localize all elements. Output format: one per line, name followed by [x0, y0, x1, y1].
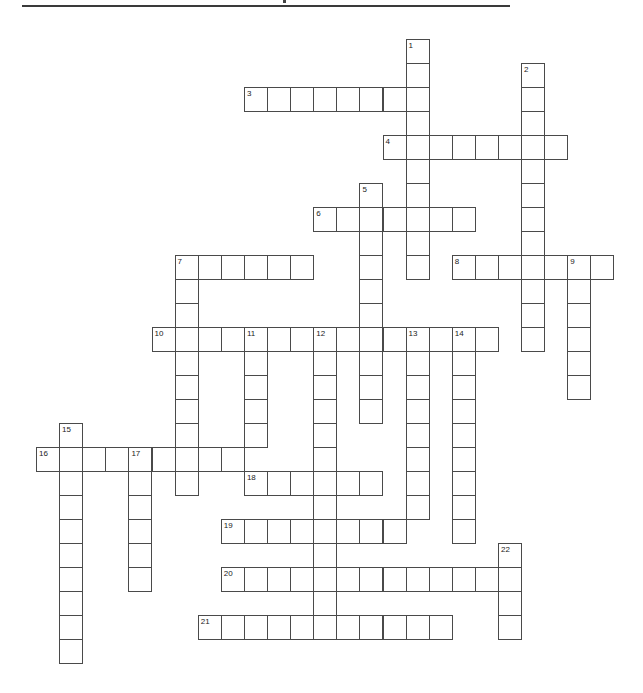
- crossword-cell[interactable]: [359, 327, 383, 352]
- crossword-cell[interactable]: [244, 615, 268, 640]
- crossword-cell[interactable]: [452, 207, 476, 232]
- crossword-cell[interactable]: [59, 639, 83, 664]
- crossword-cell[interactable]: [567, 279, 591, 304]
- crossword-cell[interactable]: [313, 471, 337, 496]
- crossword-cell[interactable]: [313, 423, 337, 448]
- crossword-cell[interactable]: [175, 447, 199, 472]
- crossword-cell[interactable]: [567, 375, 591, 400]
- crossword-cell[interactable]: [336, 615, 360, 640]
- crossword-cell[interactable]: [244, 567, 268, 592]
- crossword-cell[interactable]: [290, 519, 314, 544]
- crossword-cell[interactable]: [521, 87, 545, 112]
- crossword-cell[interactable]: [429, 135, 453, 160]
- crossword-cell[interactable]: [521, 159, 545, 184]
- crossword-cell[interactable]: [221, 327, 245, 352]
- crossword-cell[interactable]: [359, 207, 383, 232]
- crossword-cell[interactable]: [59, 543, 83, 568]
- crossword-cell[interactable]: [175, 303, 199, 328]
- crossword-cell[interactable]: [359, 567, 383, 592]
- crossword-cell[interactable]: [267, 615, 291, 640]
- crossword-cell[interactable]: 21: [198, 615, 222, 640]
- crossword-cell[interactable]: [267, 567, 291, 592]
- crossword-cell[interactable]: [406, 471, 430, 496]
- crossword-cell[interactable]: [452, 423, 476, 448]
- crossword-cell[interactable]: [452, 495, 476, 520]
- crossword-cell[interactable]: [267, 519, 291, 544]
- crossword-cell[interactable]: [198, 255, 222, 280]
- crossword-cell[interactable]: [59, 591, 83, 616]
- crossword-cell[interactable]: [406, 375, 430, 400]
- crossword-cell[interactable]: [521, 135, 545, 160]
- crossword-cell[interactable]: [475, 255, 499, 280]
- crossword-cell[interactable]: [406, 159, 430, 184]
- crossword-cell[interactable]: 2: [521, 63, 545, 88]
- crossword-cell[interactable]: 13: [406, 327, 430, 352]
- crossword-cell[interactable]: [406, 135, 430, 160]
- crossword-cell[interactable]: [406, 399, 430, 424]
- crossword-cell[interactable]: [221, 615, 245, 640]
- crossword-cell[interactable]: [567, 327, 591, 352]
- crossword-cell[interactable]: [336, 567, 360, 592]
- crossword-cell[interactable]: [313, 567, 337, 592]
- crossword-cell[interactable]: [406, 351, 430, 376]
- crossword-cell[interactable]: [359, 615, 383, 640]
- crossword-cell[interactable]: [406, 495, 430, 520]
- crossword-cell[interactable]: [267, 255, 291, 280]
- crossword-cell[interactable]: [267, 327, 291, 352]
- crossword-cell[interactable]: 8: [452, 255, 476, 280]
- crossword-cell[interactable]: [567, 303, 591, 328]
- crossword-cell[interactable]: [406, 423, 430, 448]
- crossword-cell[interactable]: [128, 567, 152, 592]
- crossword-cell[interactable]: [59, 615, 83, 640]
- crossword-cell[interactable]: [290, 471, 314, 496]
- crossword-cell[interactable]: 15: [59, 423, 83, 448]
- crossword-cell[interactable]: [313, 519, 337, 544]
- crossword-cell[interactable]: [59, 567, 83, 592]
- crossword-cell[interactable]: [359, 231, 383, 256]
- crossword-cell[interactable]: 4: [383, 135, 407, 160]
- crossword-cell[interactable]: [452, 135, 476, 160]
- crossword-cell[interactable]: [313, 87, 337, 112]
- crossword-cell[interactable]: [336, 207, 360, 232]
- crossword-cell[interactable]: [544, 255, 568, 280]
- crossword-cell[interactable]: [198, 327, 222, 352]
- crossword-cell[interactable]: [336, 471, 360, 496]
- crossword-cell[interactable]: [521, 111, 545, 136]
- crossword-cell[interactable]: [105, 447, 129, 472]
- crossword-cell[interactable]: [59, 447, 83, 472]
- crossword-cell[interactable]: [498, 591, 522, 616]
- crossword-cell[interactable]: [290, 615, 314, 640]
- crossword-cell[interactable]: [336, 519, 360, 544]
- crossword-cell[interactable]: [406, 207, 430, 232]
- crossword-cell[interactable]: 1: [406, 39, 430, 64]
- crossword-cell[interactable]: [521, 327, 545, 352]
- crossword-cell[interactable]: [521, 207, 545, 232]
- crossword-cell[interactable]: [175, 375, 199, 400]
- crossword-cell[interactable]: [383, 615, 407, 640]
- crossword-cell[interactable]: [521, 303, 545, 328]
- crossword-cell[interactable]: [128, 471, 152, 496]
- crossword-cell[interactable]: [359, 87, 383, 112]
- crossword-cell[interactable]: [359, 375, 383, 400]
- crossword-cell[interactable]: [244, 399, 268, 424]
- crossword-cell[interactable]: [452, 567, 476, 592]
- crossword-cell[interactable]: [383, 519, 407, 544]
- crossword-cell[interactable]: [383, 87, 407, 112]
- crossword-cell[interactable]: [429, 567, 453, 592]
- crossword-cell[interactable]: [221, 255, 245, 280]
- crossword-cell[interactable]: [267, 471, 291, 496]
- crossword-cell[interactable]: [59, 471, 83, 496]
- crossword-cell[interactable]: [313, 495, 337, 520]
- crossword-cell[interactable]: [429, 615, 453, 640]
- crossword-cell[interactable]: 10: [152, 327, 176, 352]
- crossword-cell[interactable]: [175, 279, 199, 304]
- crossword-cell[interactable]: [128, 543, 152, 568]
- crossword-cell[interactable]: [498, 615, 522, 640]
- crossword-cell[interactable]: [175, 399, 199, 424]
- crossword-cell[interactable]: 9: [567, 255, 591, 280]
- crossword-cell[interactable]: [313, 375, 337, 400]
- crossword-cell[interactable]: [198, 447, 222, 472]
- crossword-cell[interactable]: [383, 327, 407, 352]
- crossword-cell[interactable]: [406, 63, 430, 88]
- crossword-cell[interactable]: [290, 87, 314, 112]
